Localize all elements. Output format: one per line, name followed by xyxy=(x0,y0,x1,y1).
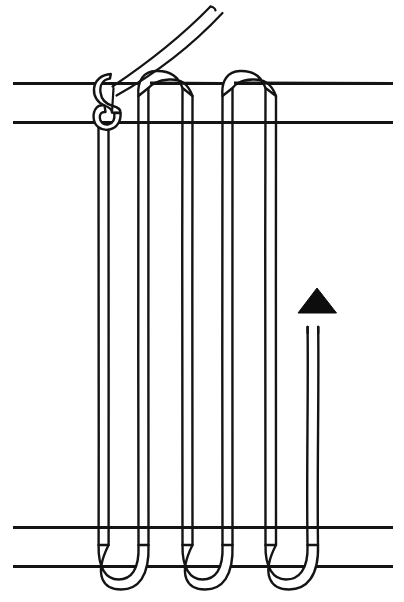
cord-strand-6-right xyxy=(318,327,319,545)
cord-strand-3-left xyxy=(182,88,183,545)
cord-strand-2-left xyxy=(138,96,139,545)
cord-strand-6-left xyxy=(307,327,308,545)
cord-strand-5-left xyxy=(265,88,266,545)
top-rail-upper-seg-c xyxy=(150,83,222,84)
cord-strand-1-left xyxy=(98,128,99,545)
top-rail-upper-seg-d xyxy=(234,83,393,84)
illustration-canvas: Knotted cord lacing diagram Line drawing… xyxy=(0,0,404,602)
cord-strand-4-left xyxy=(222,96,223,545)
cord-strand-3-right xyxy=(192,96,193,545)
cord-strand-4-right xyxy=(232,88,233,545)
knot-crossing-strand xyxy=(112,88,114,113)
cord-strand-5-right xyxy=(276,96,277,545)
knot-diagram-svg: Knotted cord lacing diagram Line drawing… xyxy=(0,0,404,602)
cord-strand-1-right xyxy=(108,131,109,545)
figure-background xyxy=(0,0,404,602)
